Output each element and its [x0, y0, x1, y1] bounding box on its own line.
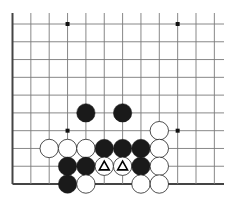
white-stone-icon	[77, 139, 95, 157]
white-stone[interactable]	[40, 139, 58, 157]
white-stone[interactable]	[150, 175, 168, 193]
white-stone[interactable]	[77, 175, 95, 193]
white-stone[interactable]	[58, 139, 76, 157]
black-stone[interactable]	[95, 139, 113, 157]
black-stone-icon	[77, 157, 95, 175]
go-board[interactable]	[0, 0, 237, 198]
white-stone-icon	[40, 139, 58, 157]
white-stone[interactable]	[113, 157, 131, 175]
black-stone-icon	[132, 139, 150, 157]
black-stone[interactable]	[58, 175, 76, 193]
white-stone[interactable]	[77, 139, 95, 157]
black-stone[interactable]	[132, 139, 150, 157]
black-stone-icon	[113, 139, 131, 157]
white-stone[interactable]	[95, 157, 113, 175]
white-stone[interactable]	[132, 175, 150, 193]
black-stone[interactable]	[113, 104, 131, 122]
star-point-icon	[176, 129, 180, 133]
black-stone-icon	[58, 175, 76, 193]
black-stone-icon	[95, 139, 113, 157]
black-stone[interactable]	[132, 157, 150, 175]
white-stone-icon	[150, 139, 168, 157]
black-stone-icon	[77, 104, 95, 122]
black-stone[interactable]	[77, 104, 95, 122]
white-stone[interactable]	[150, 157, 168, 175]
white-stone-icon	[58, 139, 76, 157]
white-stone-icon	[150, 175, 168, 193]
black-stone-icon	[132, 157, 150, 175]
black-stone[interactable]	[58, 157, 76, 175]
white-stone[interactable]	[150, 121, 168, 139]
white-stone[interactable]	[150, 139, 168, 157]
white-stone-icon	[150, 121, 168, 139]
black-stone[interactable]	[77, 157, 95, 175]
white-stone-icon	[150, 157, 168, 175]
white-stone-icon	[77, 175, 95, 193]
black-stone[interactable]	[113, 139, 131, 157]
black-stone-icon	[58, 157, 76, 175]
black-stone-icon	[113, 104, 131, 122]
star-point-icon	[66, 22, 70, 26]
star-point-icon	[176, 22, 180, 26]
white-stone-icon	[132, 175, 150, 193]
star-point-icon	[66, 129, 70, 133]
